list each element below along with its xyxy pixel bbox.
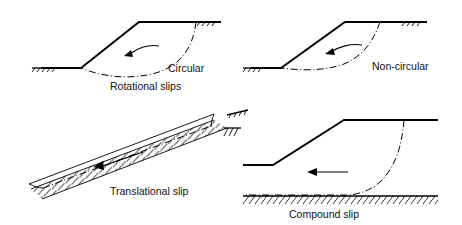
slope-profile-compound [243,120,438,165]
firm-stratum-compound [243,196,438,204]
panel-translational: Translational slip [29,114,227,199]
movement-arrow-compound [307,168,348,176]
panel-label-non-circular: Non-circular [372,60,429,72]
panel-circular: Circular [32,22,221,77]
ground-symbol-left-circular [32,68,58,72]
rotation-arrow-non-circular [325,44,362,55]
figure-canvas: Circular [0,0,462,225]
panel-compound: Compound slip [224,110,438,220]
group-caption-rotational-slips: Rotational slips [110,80,181,92]
panel-non-circular: Non-circular [243,22,429,72]
slope-failure-figure: Circular [0,0,462,225]
ground-surface-translational [29,114,214,184]
rotation-arrow-circular [124,45,159,57]
panel-label-compound: Compound slip [289,208,359,220]
ground-symbol-right-non-circular [401,22,427,26]
slip-surface-compound [243,120,404,195]
slip-surface-non-circular [281,22,380,70]
ground-symbol-left-non-circular [243,68,266,72]
panel-label-circular: Circular [168,62,205,74]
ground-symbol-right-circular [196,22,221,26]
ground-symbol-left-compound [224,110,248,136]
panel-label-translational: Translational slip [110,185,189,197]
stratum-top-boundary-translational [31,120,214,189]
